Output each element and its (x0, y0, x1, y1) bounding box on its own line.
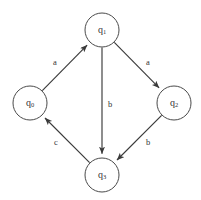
state-node-q2[interactable]: q2 (157, 86, 191, 120)
edge-label-q1-q3: b (108, 99, 112, 109)
edge-q0-to-q1 (42, 45, 87, 90)
state-node-q0[interactable]: q0 (13, 86, 47, 120)
state-label-subscript-q0: 0 (31, 102, 34, 109)
edge-label-q3-q0: c (54, 137, 58, 147)
edge-q2-to-q3 (117, 115, 162, 160)
state-transition-diagram: q0q1q2q3 aabbc (0, 0, 201, 200)
edge-q1-to-q2 (114, 42, 159, 87)
edge-label-q0-q1: a (53, 57, 57, 67)
state-label-subscript-q1: 1 (103, 29, 106, 36)
edge-label-q1-q2: a (146, 57, 150, 67)
edge-q3-to-q0 (45, 118, 90, 163)
edge-label-q2-q3: b (146, 137, 150, 147)
state-label-subscript-q2: 2 (175, 102, 178, 109)
edges-layer (42, 42, 161, 162)
state-label-subscript-q3: 3 (103, 174, 106, 181)
state-node-q1[interactable]: q1 (85, 13, 119, 47)
diagram-canvas: q0q1q2q3 aabbc (0, 0, 201, 200)
state-node-q3[interactable]: q3 (85, 158, 119, 192)
